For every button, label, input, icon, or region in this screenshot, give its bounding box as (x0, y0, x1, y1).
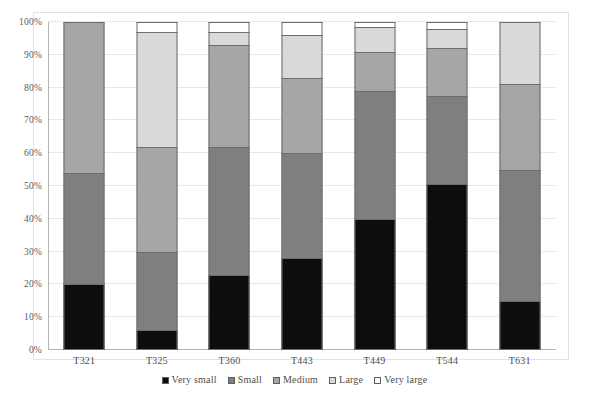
x-tick-label: T631 (509, 354, 531, 367)
x-tick-label: T449 (364, 354, 386, 367)
legend-item[interactable]: Medium (273, 374, 318, 386)
stacked-bar[interactable] (64, 22, 105, 350)
stacked-bar[interactable] (499, 22, 540, 350)
plot-area (48, 22, 556, 350)
bar-segment[interactable] (281, 35, 322, 78)
stacked-bar[interactable] (281, 22, 322, 350)
bar-segment[interactable] (136, 32, 177, 147)
y-tick-label: 10% (24, 312, 42, 322)
legend-item[interactable]: Small (228, 374, 262, 386)
legend-label: Very small (172, 374, 217, 386)
bar-segment[interactable] (209, 22, 250, 32)
bar-slot (266, 22, 339, 350)
x-tick-label: T443 (291, 354, 313, 367)
legend-swatch-icon (374, 377, 381, 384)
x-tick-label: T544 (436, 354, 458, 367)
bar-segment[interactable] (354, 219, 395, 350)
y-tick-label: 80% (24, 83, 42, 93)
bar-segment[interactable] (499, 170, 540, 301)
legend-label: Small (238, 374, 262, 386)
bar-segment[interactable] (281, 78, 322, 153)
y-tick-label: 20% (24, 279, 42, 289)
stacked-bar[interactable] (354, 22, 395, 350)
chart-legend: Very smallSmallMediumLargeVery large (0, 374, 589, 386)
legend-label: Very large (384, 374, 427, 386)
bar-segment[interactable] (136, 252, 177, 331)
legend-swatch-icon (228, 377, 235, 384)
bar-segment[interactable] (354, 27, 395, 52)
bar-segment[interactable] (64, 22, 105, 173)
bar-segment[interactable] (499, 22, 540, 84)
bar-segment[interactable] (64, 284, 105, 350)
legend-swatch-icon (329, 377, 336, 384)
bar-segment[interactable] (136, 330, 177, 350)
bar-segment[interactable] (427, 184, 468, 350)
bar-segment[interactable] (354, 91, 395, 219)
bar-slot (193, 22, 266, 350)
bar-slot (121, 22, 194, 350)
y-tick-label: 30% (24, 247, 42, 257)
bar-segment[interactable] (354, 52, 395, 91)
legend-swatch-icon (162, 377, 169, 384)
y-tick-label: 40% (24, 214, 42, 224)
bars-layer (48, 22, 556, 350)
y-tick-label: 90% (24, 50, 42, 60)
bar-segment[interactable] (281, 153, 322, 258)
bar-segment[interactable] (209, 32, 250, 45)
bar-slot (48, 22, 121, 350)
x-tick-label: T325 (146, 354, 168, 367)
bar-segment[interactable] (209, 45, 250, 147)
bar-segment[interactable] (427, 96, 468, 185)
legend-item[interactable]: Very large (374, 374, 427, 386)
stacked-bar[interactable] (209, 22, 250, 350)
bar-segment[interactable] (136, 147, 177, 252)
legend-item[interactable]: Large (329, 374, 363, 386)
bar-slot (483, 22, 556, 350)
bar-segment[interactable] (64, 173, 105, 285)
y-tick-label: 0% (29, 345, 42, 355)
x-axis-tick-labels: T321T325T360T443T449T544T631 (48, 354, 556, 370)
bar-segment[interactable] (499, 84, 540, 169)
bar-segment[interactable] (427, 48, 468, 96)
legend-swatch-icon (273, 377, 280, 384)
bar-segment[interactable] (499, 301, 540, 350)
legend-label: Large (339, 374, 363, 386)
bar-slot (411, 22, 484, 350)
x-tick-label: T360 (218, 354, 240, 367)
legend-item[interactable]: Very small (162, 374, 217, 386)
legend-label: Medium (283, 374, 318, 386)
stacked-bar-chart: 0%10%20%30%40%50%60%70%80%90%100% T321T3… (0, 0, 589, 408)
y-tick-label: 70% (24, 115, 42, 125)
bar-segment[interactable] (427, 29, 468, 49)
x-tick-label: T321 (73, 354, 95, 367)
bar-segment[interactable] (281, 22, 322, 35)
bar-segment[interactable] (427, 22, 468, 29)
stacked-bar[interactable] (427, 22, 468, 350)
bar-segment[interactable] (209, 275, 250, 350)
bar-segment[interactable] (281, 258, 322, 350)
bar-slot (338, 22, 411, 350)
bar-segment[interactable] (209, 147, 250, 275)
y-tick-label: 100% (19, 17, 42, 27)
y-axis-tick-labels: 0%10%20%30%40%50%60%70%80%90%100% (0, 22, 46, 350)
bar-segment[interactable] (354, 22, 395, 27)
bar-segment[interactable] (136, 22, 177, 32)
y-tick-label: 50% (24, 181, 42, 191)
stacked-bar[interactable] (136, 22, 177, 350)
y-tick-label: 60% (24, 148, 42, 158)
